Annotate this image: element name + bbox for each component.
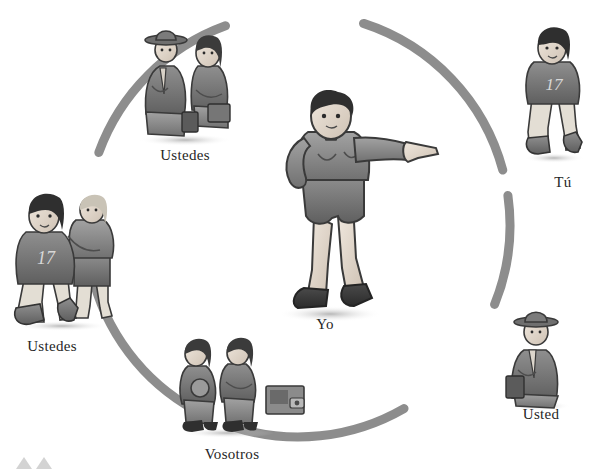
figure-tu: 17 (518, 28, 590, 163)
label-ustedes-left: Ustedes (12, 338, 92, 355)
label-ustedes-top: Ustedes (145, 147, 225, 164)
figure-vosotros (170, 338, 310, 438)
figure-usted (500, 298, 580, 410)
arc-segment (495, 196, 510, 305)
figure-yo (268, 92, 438, 322)
label-usted: Usted (512, 406, 570, 423)
svg-text:17: 17 (546, 75, 565, 94)
figure-ustedes-top (130, 20, 240, 145)
corner-triangle-marks (4, 447, 60, 469)
label-vosotros: Vosotros (192, 446, 272, 463)
svg-text:17: 17 (37, 248, 56, 268)
label-tu: Tú (545, 174, 581, 191)
label-yo: Yo (305, 316, 345, 333)
figure-ustedes-left: 17 (10, 198, 120, 330)
